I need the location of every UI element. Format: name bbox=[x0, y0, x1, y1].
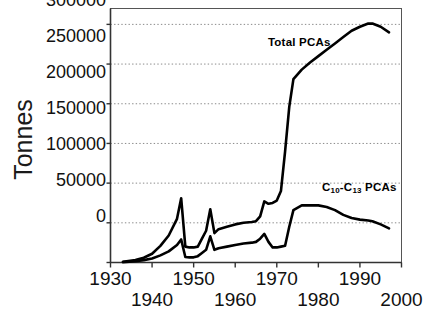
x-tick-label: 1990 bbox=[320, 268, 400, 290]
x-tick-label: 1980 bbox=[278, 289, 358, 311]
series-label-total-pcas: Total PCAs bbox=[268, 36, 331, 48]
y-tick-label: 50000 bbox=[36, 170, 106, 191]
series-line-0 bbox=[123, 24, 389, 262]
y-tick-label: 100000 bbox=[36, 134, 106, 155]
series-label-c10-c13-pcas: C10-C13 PCAs bbox=[322, 181, 397, 193]
series-lines bbox=[123, 24, 389, 263]
y-tick-label: 250000 bbox=[36, 26, 106, 47]
c10-mid: -C bbox=[340, 181, 353, 193]
c10-prefix: C bbox=[322, 181, 331, 193]
x-tick-label: 1930 bbox=[71, 268, 151, 290]
y-tick-label: 150000 bbox=[36, 98, 106, 119]
x-tick-label: 1950 bbox=[154, 268, 234, 290]
x-tick-label: 1970 bbox=[237, 268, 317, 290]
axis-frame bbox=[107, 9, 402, 263]
y-tick-label: 300000 bbox=[36, 0, 106, 11]
x-tick-label: 2000 bbox=[362, 289, 431, 311]
series-line-1 bbox=[123, 205, 389, 262]
c10-subscript: 10 bbox=[331, 186, 340, 195]
x-tick-label: 1960 bbox=[195, 289, 275, 311]
c10-suffix: PCAs bbox=[362, 181, 397, 193]
x-tick-label: 1940 bbox=[112, 289, 192, 311]
c13-subscript: 13 bbox=[352, 186, 361, 195]
y-tick-label: 200000 bbox=[36, 62, 106, 83]
y-tick-label: 0 bbox=[36, 206, 106, 227]
chart-figure: Tonnes 300000 250000 200000 150000 10000… bbox=[0, 0, 431, 322]
